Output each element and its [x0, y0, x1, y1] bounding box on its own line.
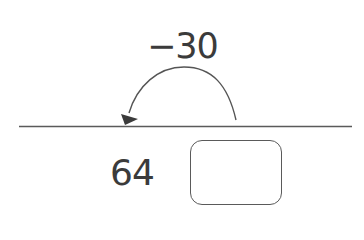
answer-box[interactable]: [190, 140, 282, 205]
jump-arc: [129, 67, 236, 120]
start-value-label: 64: [110, 153, 154, 193]
arrowhead-icon: [121, 114, 138, 125]
jump-label: −30: [147, 26, 218, 66]
